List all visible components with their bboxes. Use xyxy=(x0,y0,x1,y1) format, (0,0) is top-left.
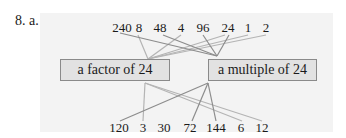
bottom-number: 30 xyxy=(158,121,171,134)
top-number: 1 xyxy=(245,21,252,34)
top-number: 4 xyxy=(178,21,185,34)
bottom-number: 120 xyxy=(109,121,129,134)
bottom-number: 3 xyxy=(140,121,147,134)
multiple-box: a multiple of 24 xyxy=(208,59,317,81)
top-number: 8 xyxy=(136,21,143,34)
top-number: 96 xyxy=(197,21,210,34)
bottom-number: 144 xyxy=(206,121,226,134)
top-number: 48 xyxy=(154,21,167,34)
top-number: 240 xyxy=(112,21,132,34)
top-number: 2 xyxy=(263,21,270,34)
top-number: 24 xyxy=(222,21,235,34)
bottom-number: 6 xyxy=(238,121,245,134)
factor-box-label: a factor of 24 xyxy=(77,62,152,78)
bottom-number: 72 xyxy=(184,121,197,134)
bottom-number: 12 xyxy=(256,121,269,134)
factor-box: a factor of 24 xyxy=(60,59,170,81)
multiple-box-label: a multiple of 24 xyxy=(218,62,307,78)
